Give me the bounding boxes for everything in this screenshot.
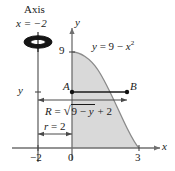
tick-label-y-nine: 9 [59, 45, 65, 56]
y-axis-label: y [75, 17, 80, 28]
inner-radius-arrowhead-right [66, 132, 72, 136]
y-axis-arrowhead [69, 28, 74, 34]
axis-word-label: Axis [24, 4, 45, 15]
point-b-label: B [130, 81, 137, 92]
x-axis-label: x [162, 141, 167, 152]
outer-radius-label: R = √9 − y + 2 [45, 104, 112, 117]
curve-equation-label: y = 9 − x2 [92, 40, 134, 52]
point-a-label: A [63, 81, 70, 92]
tick-label-x-zero: 0 [68, 152, 74, 163]
tick-label-x-three: 3 [135, 152, 141, 163]
outer-radius-arrowhead-right [121, 98, 127, 102]
figure-canvas: Axis x = −2 y x y 9 −2 0 3 A B y = 9 − x… [0, 0, 175, 171]
y-left-tick-label: y [18, 85, 23, 96]
tick-label-x-neg-two: −2 [30, 152, 42, 163]
point-a-dot [70, 90, 74, 94]
inner-radius-label: r = 2 [44, 121, 66, 132]
inner-radius-arrowhead-left [38, 132, 44, 136]
x-axis-arrowhead [154, 145, 160, 150]
outer-radius-arrowhead-left [38, 98, 44, 102]
axis-equation-label: x = −2 [16, 18, 47, 29]
point-b-dot [125, 90, 129, 94]
